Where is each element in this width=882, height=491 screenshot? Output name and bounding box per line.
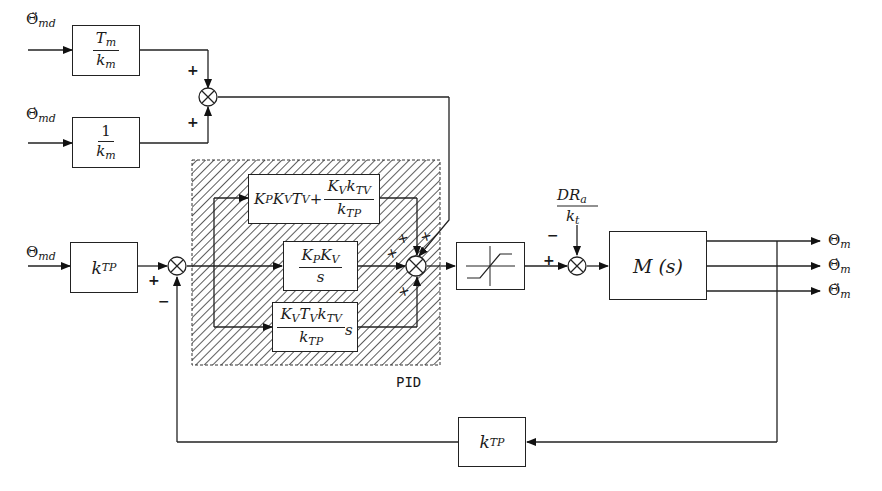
sign-error-plus: +: [148, 273, 160, 287]
disturbance-denominator: kt: [566, 207, 580, 227]
block-ktp-input[interactable]: kTP: [70, 242, 138, 293]
output-velocity-label: Θ̇m: [828, 256, 851, 276]
sum-pid: [406, 256, 426, 276]
sign-ff-top: +: [187, 63, 199, 77]
disturbance-numerator: DRa: [557, 186, 587, 206]
sign-ff-bottom: +: [187, 115, 199, 129]
sign-error-minus: −: [158, 294, 170, 308]
block-ktp-feedback[interactable]: kTP: [458, 417, 526, 467]
output-position-label: Θm: [828, 231, 851, 251]
input-vel-desired-label: Θ̇md: [26, 105, 56, 125]
block-tm-over-km[interactable]: Tm km: [72, 25, 140, 76]
input-pos-desired-label: Θmd: [26, 243, 56, 263]
block-one-over-km[interactable]: 1 km: [72, 117, 140, 168]
pid-group-label: PID: [396, 374, 421, 390]
sign-dist-plus: +: [543, 253, 555, 267]
sum-feedforward: [199, 88, 217, 106]
block-saturation[interactable]: [456, 242, 525, 290]
block-pid-proportional[interactable]: KP KV TV + KVkTV kTP: [248, 174, 380, 224]
output-acceleration-label: Θ̈m: [828, 281, 851, 301]
block-pid-derivative[interactable]: KVTVkTV kTP s: [272, 302, 358, 352]
input-accel-desired-label: Θ̈md: [26, 10, 56, 30]
sum-disturbance: [568, 257, 586, 275]
block-pid-integral[interactable]: KPKV s: [283, 241, 358, 291]
sign-dist-minus: −: [547, 228, 559, 242]
sum-error: [168, 257, 186, 275]
block-plant[interactable]: M (s): [609, 231, 707, 300]
